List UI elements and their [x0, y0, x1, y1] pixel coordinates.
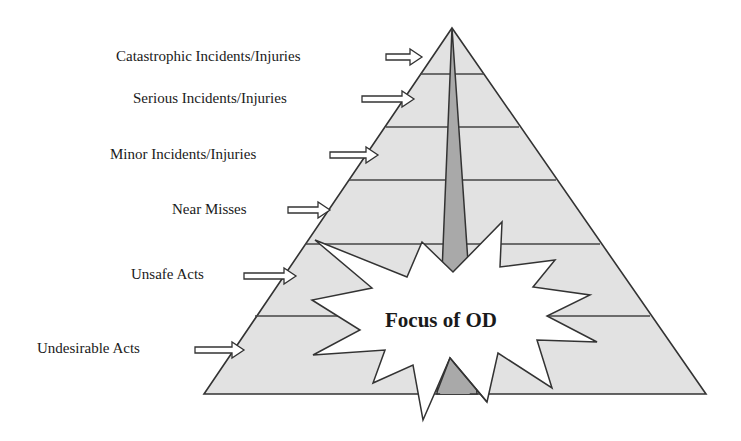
arrow-right-icon — [288, 202, 330, 218]
level-label-near-misses: Near Misses — [172, 200, 247, 218]
arrow-right-icon — [244, 268, 296, 284]
incident-pyramid-diagram — [0, 0, 741, 441]
arrow-right-icon — [386, 49, 422, 65]
level-label-catastrophic: Catastrophic Incidents/Injuries — [116, 47, 301, 65]
level-label-minor: Minor Incidents/Injuries — [110, 145, 256, 163]
focus-of-od-label: Focus of OD — [385, 308, 497, 333]
level-label-serious: Serious Incidents/Injuries — [133, 89, 287, 107]
level-label-unsafe-acts: Unsafe Acts — [131, 265, 204, 283]
arrow-right-icon — [362, 91, 414, 107]
level-label-undesirable-acts: Undesirable Acts — [37, 339, 140, 357]
arrow-right-icon — [195, 342, 244, 358]
